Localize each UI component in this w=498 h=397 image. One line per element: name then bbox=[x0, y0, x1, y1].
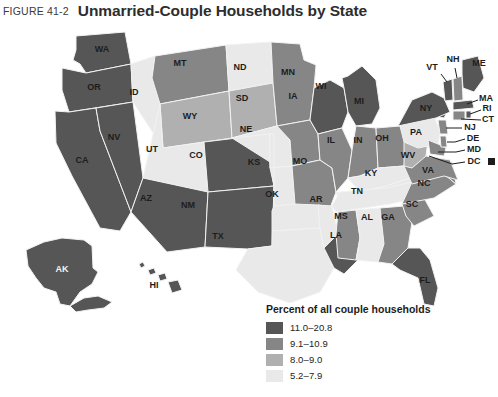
state-label-ME: ME bbox=[472, 58, 486, 68]
figure-title: Unmarried-Couple Households by State bbox=[78, 2, 367, 20]
state-RI[interactable] bbox=[466, 111, 471, 118]
state-label-SD: SD bbox=[236, 93, 249, 103]
state-label-HI: HI bbox=[150, 280, 159, 290]
state-HI-4[interactable] bbox=[168, 280, 182, 293]
state-label-OR: OR bbox=[87, 82, 101, 92]
state-label-GA: GA bbox=[381, 212, 395, 222]
state-label-VT: VT bbox=[426, 62, 438, 72]
legend-swatch bbox=[266, 370, 283, 382]
state-DE[interactable] bbox=[440, 136, 447, 147]
state-label-SC: SC bbox=[406, 199, 419, 209]
state-HI-1[interactable] bbox=[139, 262, 145, 268]
state-label-NY: NY bbox=[420, 103, 433, 113]
state-VT[interactable] bbox=[443, 79, 453, 101]
legend-swatch bbox=[266, 322, 283, 334]
legend-row[interactable]: 5.2–7.9 bbox=[264, 368, 496, 383]
state-label-MA: MA bbox=[479, 93, 493, 103]
legend-swatch bbox=[266, 338, 283, 350]
state-label-MS: MS bbox=[334, 211, 348, 221]
state-AK-tail[interactable] bbox=[70, 296, 112, 312]
leader-line-vt bbox=[441, 74, 447, 82]
legend-label: 8.0–9.0 bbox=[290, 354, 322, 365]
state-label-AZ: AZ bbox=[140, 193, 152, 203]
state-label-CT: CT bbox=[482, 114, 494, 124]
state-NH[interactable] bbox=[453, 76, 463, 101]
state-label-VA: VA bbox=[422, 165, 434, 175]
state-label-MI: MI bbox=[354, 96, 364, 106]
state-label-MT: MT bbox=[174, 58, 187, 68]
legend-row[interactable]: 8.0–9.0 bbox=[264, 352, 496, 367]
figure-header: FIGURE 41-2 Unmarried-Couple Households … bbox=[0, 0, 498, 22]
state-MA[interactable] bbox=[453, 100, 474, 110]
state-label-UT: UT bbox=[146, 144, 158, 154]
state-HI-3[interactable] bbox=[158, 273, 167, 281]
state-label-MO: MO bbox=[293, 156, 308, 166]
state-label-ID: ID bbox=[130, 87, 140, 97]
leader-line-nh bbox=[455, 68, 457, 78]
state-FL[interactable] bbox=[392, 248, 438, 306]
state-label-NJ: NJ bbox=[464, 122, 476, 132]
state-label-WA: WA bbox=[95, 44, 110, 54]
state-label-RI: RI bbox=[483, 103, 492, 113]
us-choropleth-map: WA OR CA NV ID MT WY UT CO AZ NM ND SD N… bbox=[0, 16, 498, 334]
figure-container: FIGURE 41-2 Unmarried-Couple Households … bbox=[0, 0, 498, 397]
leader-line-de bbox=[447, 139, 465, 142]
legend-label: 11.0–20.8 bbox=[290, 322, 332, 333]
state-label-NH: NH bbox=[447, 54, 460, 64]
state-label-WI: WI bbox=[316, 81, 327, 91]
state-label-WV: WV bbox=[401, 150, 416, 160]
state-label-CA: CA bbox=[76, 155, 89, 165]
state-label-PA: PA bbox=[410, 127, 422, 137]
legend-title: Percent of all couple households bbox=[266, 303, 496, 315]
legend-label: 9.1–10.9 bbox=[290, 338, 328, 349]
legend-row[interactable]: 11.0–20.8 bbox=[264, 320, 496, 335]
state-label-OH: OH bbox=[375, 133, 389, 143]
state-label-AL: AL bbox=[361, 212, 373, 222]
state-label-MD: MD bbox=[467, 144, 481, 154]
state-label-AK: AK bbox=[56, 264, 69, 274]
state-label-KS: KS bbox=[248, 157, 261, 167]
state-label-IA: IA bbox=[289, 91, 299, 101]
state-label-NV: NV bbox=[108, 132, 121, 142]
state-label-CO: CO bbox=[189, 150, 203, 160]
state-label-IL: IL bbox=[327, 135, 336, 145]
state-label-DE: DE bbox=[467, 133, 480, 143]
state-label-DC: DC bbox=[468, 156, 481, 166]
state-label-NM: NM bbox=[181, 200, 195, 210]
legend-row[interactable]: 9.1–10.9 bbox=[264, 336, 496, 351]
state-label-TN: TN bbox=[351, 186, 363, 196]
leader-line-ri bbox=[470, 110, 481, 114]
state-AZ[interactable] bbox=[131, 178, 208, 252]
state-label-LA: LA bbox=[330, 230, 342, 240]
legend-swatch bbox=[266, 354, 283, 366]
state-label-NC: NC bbox=[418, 178, 431, 188]
state-label-WY: WY bbox=[183, 111, 198, 121]
dc-marker-square bbox=[488, 158, 495, 165]
state-label-AR: AR bbox=[310, 194, 323, 204]
state-OK[interactable] bbox=[272, 204, 320, 231]
state-MN[interactable] bbox=[271, 42, 316, 126]
state-label-TX: TX bbox=[212, 231, 224, 241]
state-label-FL: FL bbox=[420, 275, 431, 285]
state-label-NE: NE bbox=[240, 124, 253, 134]
state-label-KY: KY bbox=[365, 168, 378, 178]
legend-label: 5.2–7.9 bbox=[290, 370, 322, 381]
state-HI-2[interactable] bbox=[148, 268, 156, 275]
figure-number: FIGURE 41-2 bbox=[3, 5, 69, 17]
state-label-IN: IN bbox=[354, 135, 363, 145]
state-label-ND: ND bbox=[234, 62, 247, 72]
state-label-MN: MN bbox=[281, 67, 295, 77]
state-NJ[interactable] bbox=[438, 120, 448, 134]
state-label-OK: OK bbox=[265, 189, 279, 199]
map-legend: Percent of all couple households 11.0–20… bbox=[264, 303, 496, 391]
